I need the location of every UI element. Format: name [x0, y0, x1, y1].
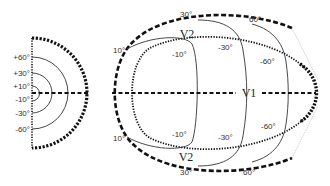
- label-ecc-60-bottom: 60°: [243, 168, 255, 177]
- label-polar-m60-bottom: -60°: [261, 122, 276, 131]
- label-plus-30: +30°: [13, 69, 30, 78]
- visual-hemifield: +60° +30° +10° -10° -30° -60°: [13, 38, 88, 148]
- faint-boundary-bottom: [292, 106, 318, 158]
- label-polar-m10-top: -10°: [172, 50, 187, 59]
- label-polar-m10-bottom: -10°: [172, 130, 187, 139]
- label-polar-m30-top: -30°: [218, 43, 233, 52]
- label-minus-30: -30°: [15, 109, 30, 118]
- visual-field-diagram: +60° +30° +10° -10° -30° -60° V1 V2 V2 1…: [0, 0, 330, 186]
- label-minus-60: -60°: [15, 125, 30, 134]
- label-v2-bottom: V2: [179, 150, 194, 164]
- label-v1: V1: [242, 86, 257, 100]
- label-ecc-10-top: 10°: [113, 46, 125, 55]
- faint-boundary-top: [292, 28, 318, 80]
- label-ecc-60-top: 60°: [249, 15, 261, 24]
- label-minus-10: -10°: [15, 95, 30, 104]
- label-polar-m30-bottom: -30°: [218, 133, 233, 142]
- label-ecc-10-bottom: 10°: [113, 134, 125, 143]
- label-plus-60: +60°: [13, 53, 30, 62]
- cortical-map: V1 V2 V2 10° 30° 60° 10° 30° 60° -10° -3…: [112, 10, 318, 177]
- label-plus-10: +10°: [13, 82, 30, 91]
- eccentricity-arc-60: [32, 57, 68, 129]
- label-polar-m60-top: -60°: [260, 57, 275, 66]
- label-ecc-30-top: 30°: [180, 10, 192, 19]
- label-ecc-30-bottom: 30°: [180, 168, 192, 177]
- label-v2-top: V2: [180, 27, 195, 41]
